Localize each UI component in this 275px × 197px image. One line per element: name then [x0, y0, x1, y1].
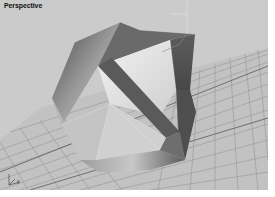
viewport-label[interactable]: Perspective [4, 2, 42, 9]
viewport-scene[interactable] [0, 0, 268, 190]
perspective-viewport[interactable]: Perspective y [0, 0, 268, 190]
axis-tripod-icon [6, 172, 26, 188]
axis-label-y: y [17, 178, 20, 184]
axis-tripod: y [6, 172, 26, 188]
